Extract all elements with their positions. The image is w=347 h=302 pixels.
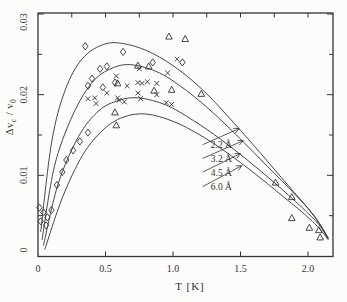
x-axis-title: T [K] [160,280,220,292]
y-axis-title: Δvc / v0 [4,99,18,136]
x-tick-label: 2.0 [302,263,315,274]
x-tick-label: 1.5 [234,263,247,274]
diamond-points [37,43,186,229]
y-tick-label: 0.01 [18,167,29,185]
x-tick-label: 1.0 [167,263,180,274]
y-tick-label: 0 [18,248,29,253]
curve-22-angstrom [41,43,329,239]
y-tick-label: 0.02 [18,86,29,104]
y-tick-label: 0.03 [18,13,29,31]
x-tick-label: 0 [36,263,41,274]
legend-label-1: 2.2 Å [211,139,232,150]
curve-60-angstrom [45,114,329,250]
cross-points [86,57,180,107]
legend-label-2: 3.2 Å [211,153,232,164]
legend-label-3: 4.5 Å [211,167,232,178]
x-tick-label: 0.5 [99,263,112,274]
curve-45-angstrom [43,98,328,246]
chart-svg: 00.51.01.52.000.010.020.032.2 Å3.2 Å4.5 … [0,0,347,302]
scanned-chart-figure: 00.51.01.52.000.010.020.032.2 Å3.2 Å4.5 … [0,0,347,302]
legend-label-4: 6.0 Å [211,181,232,192]
